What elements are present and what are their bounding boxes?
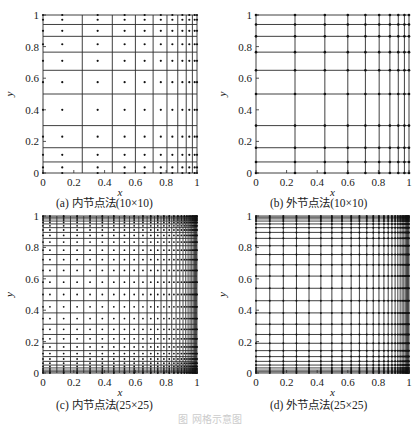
y-tick-label: 0.2 (238, 336, 252, 348)
panel-a: 000.20.20.40.40.60.60.80.811xy (3, 9, 200, 198)
caption-a: (a) 内节点法(10×10) (56, 194, 153, 210)
x-tick-label: 0 (40, 376, 46, 388)
y-tick-label: 1 (247, 210, 253, 222)
y-tick-label: 0.2 (25, 135, 39, 147)
x-tick-label: 0.8 (372, 176, 386, 188)
x-tick-label: 0.4 (310, 176, 324, 188)
y-tick-label: 0.4 (25, 304, 39, 316)
mesh-nodes (42, 215, 198, 374)
panel-d: 000.20.20.40.40.60.60.80.811xy (216, 210, 412, 398)
x-tick-label: 0 (253, 376, 259, 388)
y-tick-label: 0.6 (238, 72, 252, 84)
x-tick-label: 1 (406, 176, 412, 188)
y-tick-label: 0.6 (25, 273, 39, 285)
y-tick-label: 0.8 (25, 41, 39, 53)
y-tick-label: 0.8 (25, 241, 39, 253)
x-tick-label: 1 (406, 376, 412, 388)
y-tick-label: 1 (34, 9, 40, 21)
y-axis-label: y (216, 292, 228, 298)
y-tick-label: 0.4 (238, 104, 252, 116)
caption-c: (c) 内节点法(25×25) (56, 396, 153, 412)
y-tick-label: 0.4 (25, 104, 39, 116)
y-tick-label: 0.4 (238, 304, 252, 316)
y-tick-label: 0.6 (25, 72, 39, 84)
panel-c: 000.20.20.40.40.60.60.80.811xy (3, 210, 200, 398)
x-tick-label: 1 (194, 376, 200, 388)
x-tick-label: 0.4 (98, 376, 112, 388)
x-tick-label: 0.4 (310, 376, 324, 388)
panel-b: 000.20.20.40.40.60.60.80.811xy (216, 9, 412, 198)
y-tick-label: 0 (247, 367, 253, 379)
x-tick-label: 0 (40, 176, 46, 188)
caption-b: (b) 外节点法(10×10) (270, 194, 367, 210)
y-axis-label: y (3, 91, 15, 97)
y-axis-label: y (3, 292, 15, 298)
x-tick-label: 0.2 (280, 176, 294, 188)
y-tick-label: 1 (34, 210, 40, 222)
x-tick-label: 0.2 (67, 176, 81, 188)
y-tick-label: 0 (247, 167, 253, 179)
x-tick-label: 0.6 (341, 376, 355, 388)
y-tick-label: 0 (34, 167, 40, 179)
y-tick-label: 0.2 (238, 135, 252, 147)
x-tick-label: 0.6 (341, 176, 355, 188)
x-tick-label: 0.4 (98, 176, 112, 188)
y-tick-label: 0.2 (25, 336, 39, 348)
mesh-nodes (255, 215, 410, 374)
y-tick-label: 0.8 (238, 241, 252, 253)
y-axis-label: y (216, 91, 228, 97)
x-tick-label: 0.8 (372, 376, 386, 388)
caption-d: (d) 外节点法(25×25) (270, 396, 367, 412)
x-tick-label: 0.8 (159, 176, 173, 188)
x-tick-label: 0.8 (159, 376, 173, 388)
x-tick-label: 0 (253, 176, 259, 188)
y-tick-label: 0.8 (238, 41, 252, 53)
x-tick-label: 0.2 (67, 376, 81, 388)
x-tick-label: 0.6 (129, 376, 143, 388)
y-tick-label: 1 (247, 9, 253, 21)
figure-caption: 图 网格示意图 (0, 411, 420, 426)
y-tick-label: 0.6 (238, 273, 252, 285)
x-tick-label: 0.2 (280, 376, 294, 388)
x-tick-label: 0.6 (129, 176, 143, 188)
x-tick-label: 1 (194, 176, 200, 188)
y-tick-label: 0 (34, 367, 40, 379)
